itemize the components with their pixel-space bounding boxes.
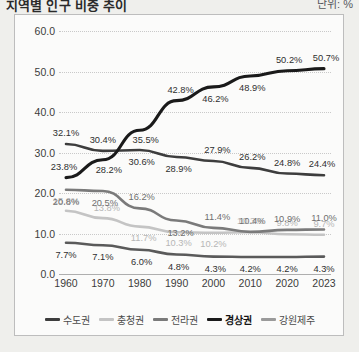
legend-item-강원제주[interactable]: 강원제주 <box>261 312 315 327</box>
series-lines <box>59 31 331 274</box>
data-label: 32.1% <box>53 128 79 138</box>
x-axis-tick-label: 1980 <box>128 277 151 289</box>
x-axis-tick-label: 2000 <box>202 277 225 289</box>
data-label: 10.4% <box>239 216 265 226</box>
legend-item-경상권[interactable]: 경상권 <box>207 312 252 327</box>
data-label: 30.6% <box>129 157 155 167</box>
data-label: 7.7% <box>55 250 76 260</box>
data-label: 24.8% <box>274 158 300 168</box>
legend-swatch-icon <box>261 318 276 321</box>
unit-label: 단위: % <box>317 0 353 11</box>
x-axis-tick-label: 1960 <box>54 277 77 289</box>
y-axis-tick-label: 10.0 <box>35 228 55 240</box>
data-label: 30.4% <box>90 135 116 145</box>
data-label: 4.3% <box>313 264 334 274</box>
data-label: 11.4% <box>205 212 231 222</box>
x-axis-tick-label: 1990 <box>165 277 188 289</box>
data-label: 11.0% <box>311 213 337 223</box>
legend-label: 전라권 <box>171 312 198 327</box>
data-label: 27.9% <box>204 145 230 155</box>
x-axis-tick-label: 2020 <box>275 277 298 289</box>
data-label: 10.3% <box>165 238 191 248</box>
y-axis-tick-label: 0.0 <box>40 268 55 280</box>
data-label: 20.5% <box>92 198 118 208</box>
data-label: 50.7% <box>313 53 339 63</box>
x-axis-tick-label: 2023 <box>312 277 335 289</box>
legend-item-충청권[interactable]: 충청권 <box>99 312 144 327</box>
data-label: 35.5% <box>133 135 159 145</box>
legend-swatch-icon <box>99 318 114 321</box>
chart-card: 0.010.020.030.040.050.060.0 32.1%30.4%30… <box>14 14 344 336</box>
legend-label: 수도권 <box>63 312 90 327</box>
data-label: 7.1% <box>92 252 113 262</box>
data-label: 23.8% <box>51 162 77 172</box>
x-axis-labels: 19601970198019902000201020202023 <box>59 277 331 293</box>
data-label: 24.4% <box>309 159 335 169</box>
y-axis-labels: 0.010.020.030.040.050.060.0 <box>17 31 55 274</box>
data-label: 10.9% <box>274 214 300 224</box>
legend-item-수도권[interactable]: 수도권 <box>45 312 90 327</box>
data-label: 4.2% <box>240 264 261 274</box>
y-axis-tick-label: 40.0 <box>35 106 55 118</box>
x-axis-tick-label: 1970 <box>91 277 114 289</box>
data-label: 42.8% <box>167 85 193 95</box>
y-axis-tick-label: 30.0 <box>35 147 55 159</box>
chart-title-bar: 지역별 인구 비중 추이 단위: % <box>0 0 359 13</box>
gridline <box>59 274 331 275</box>
data-label: 13.2% <box>167 228 193 238</box>
legend-swatch-icon <box>45 318 60 321</box>
data-label: 10.2% <box>200 239 226 249</box>
data-label: 28.9% <box>165 164 191 174</box>
data-label: 4.8% <box>168 262 189 272</box>
data-label: 26.2% <box>239 152 265 162</box>
data-label: 48.9% <box>239 83 265 93</box>
y-axis-tick-label: 60.0 <box>35 25 55 37</box>
data-label: 20.8% <box>53 197 79 207</box>
legend-label: 충청권 <box>117 312 144 327</box>
x-axis-tick-label: 2010 <box>239 277 262 289</box>
data-label: 11.7% <box>131 233 157 243</box>
data-label: 6.0% <box>131 257 152 267</box>
legend-item-전라권[interactable]: 전라권 <box>153 312 198 327</box>
legend-swatch-icon <box>207 318 222 321</box>
chart-legend: 수도권충청권전라권경상권강원제주 <box>15 312 345 327</box>
data-label: 4.2% <box>277 264 298 274</box>
legend-swatch-icon <box>153 318 168 321</box>
data-label: 28.2% <box>96 165 122 175</box>
y-axis-tick-label: 50.0 <box>35 66 55 78</box>
data-label: 16.2% <box>129 192 155 202</box>
plot-area: 32.1%30.4%30.6%28.9%27.9%26.2%24.8%24.4%… <box>59 31 331 274</box>
page-title: 지역별 인구 비중 추이 <box>6 0 127 13</box>
data-label: 50.2% <box>276 55 302 65</box>
legend-label: 경상권 <box>225 312 252 327</box>
legend-label: 강원제주 <box>279 312 315 327</box>
data-label: 4.3% <box>205 264 226 274</box>
data-label: 46.2% <box>202 94 228 104</box>
